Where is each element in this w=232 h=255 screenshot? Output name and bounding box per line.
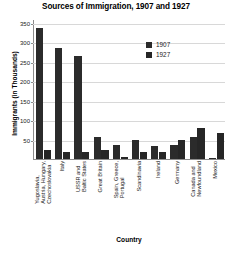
immigration-bar-chart: Sources of Immigration, 1907 and 1927 Im…: [0, 0, 232, 255]
y-tick-mark: [31, 121, 33, 122]
y-tick-mark: [31, 102, 33, 103]
bar-1907: [151, 146, 158, 159]
bar-1907: [132, 140, 139, 159]
y-tick-mark: [31, 63, 33, 64]
legend: 1907 1927: [146, 40, 170, 60]
bar-group: [207, 20, 226, 159]
bar-1927: [82, 152, 89, 159]
bar-1907: [74, 56, 81, 159]
bar-1927: [159, 152, 166, 159]
x-tick-label: Spain, Greece,Portugal: [110, 161, 129, 231]
x-tick-label: Mexico: [206, 161, 225, 231]
legend-swatch-icon: [146, 52, 152, 58]
y-tick-label: 50: [23, 138, 30, 144]
bar-group: [188, 20, 207, 159]
bar-group: [53, 20, 72, 159]
y-tick-mark: [31, 82, 33, 83]
bar-1907: [36, 28, 43, 159]
bar-1927: [140, 152, 147, 159]
bar-1927: [217, 133, 224, 159]
legend-swatch-icon: [146, 42, 152, 48]
x-tick-label: Italy: [52, 161, 71, 231]
bar-1907: [94, 137, 101, 159]
bar-group: [111, 20, 130, 159]
bar-1907: [209, 158, 216, 159]
x-axis-tick-labels: Yugoslavia,Austria, Hungary,Czechoslovak…: [33, 161, 225, 231]
bar-1907: [55, 48, 62, 159]
bar-1927: [197, 128, 204, 160]
legend-item-1907: 1907: [146, 40, 170, 50]
y-axis-title: Immigrants (in Thousands): [11, 34, 18, 154]
bar-1907: [170, 145, 177, 159]
x-tick-label: Germany: [167, 161, 186, 231]
y-tick-label: 300: [20, 40, 30, 46]
bar-1927: [63, 152, 70, 159]
y-tick-label: 350: [20, 21, 30, 27]
x-tick-label: Yugoslavia,Austria, Hungary,Czechoslovak…: [33, 161, 52, 231]
x-tick-label: Scandinavia: [129, 161, 148, 231]
y-tick-label: 150: [20, 99, 30, 105]
bars-layer: [34, 20, 225, 159]
y-tick-label: 200: [20, 79, 30, 85]
legend-item-1927: 1927: [146, 50, 170, 60]
bar-group: [92, 20, 111, 159]
x-axis-line: [33, 159, 225, 160]
legend-label: 1927: [156, 52, 170, 58]
legend-label: 1907: [156, 42, 170, 48]
y-tick-label: 100: [20, 118, 30, 124]
y-tick-mark: [31, 24, 33, 25]
bar-1907: [190, 137, 197, 159]
x-tick-label: Great Britain: [91, 161, 110, 231]
y-tick-mark: [31, 141, 33, 142]
chart-title: Sources of Immigration, 1907 and 1927: [0, 2, 232, 11]
bar-1907: [113, 145, 120, 159]
bar-group: [34, 20, 53, 159]
bar-1927: [121, 157, 128, 159]
x-tick-label: Ireland: [148, 161, 167, 231]
x-tick-label: Canada andNewfoundland: [187, 161, 206, 231]
x-tick-label: USSR andBaltic States: [71, 161, 90, 231]
bar-group: [72, 20, 91, 159]
y-tick-label: 250: [20, 60, 30, 66]
bar-1927: [178, 140, 185, 159]
plot-area: 50100150200250300350: [33, 20, 225, 160]
x-axis-title: Country: [33, 236, 225, 243]
bar-1927: [44, 150, 51, 159]
y-tick-mark: [31, 43, 33, 44]
bar-group: [168, 20, 187, 159]
bar-1927: [101, 150, 108, 159]
